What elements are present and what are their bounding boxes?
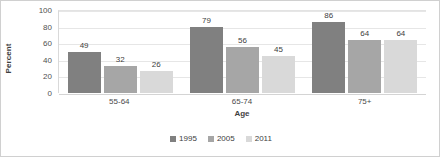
- bar-slot: 32: [104, 11, 137, 93]
- bar-group: 866464: [304, 11, 426, 93]
- bar-group-inner: 866464: [312, 11, 417, 93]
- bar[interactable]: 26: [140, 71, 173, 93]
- y-axis-tick-label: 60: [18, 39, 52, 48]
- bar-value-label: 32: [116, 55, 125, 64]
- y-axis-tick-label: 40: [18, 55, 52, 64]
- x-axis-category-label: 55-64: [58, 95, 181, 109]
- legend-swatch-icon: [246, 136, 252, 142]
- y-axis-tick-label: 0: [18, 89, 52, 98]
- legend-swatch-icon: [170, 136, 176, 142]
- bar-value-label: 64: [396, 29, 405, 38]
- y-axis-tick-label: 20: [18, 72, 52, 81]
- bar[interactable]: 64: [384, 40, 417, 93]
- bar-group: 493226: [59, 11, 181, 93]
- plot-area: 493226795645866464: [58, 10, 426, 93]
- bar-slot: 64: [384, 11, 417, 93]
- bar-slot: 64: [348, 11, 381, 93]
- x-axis-category-label: 75+: [303, 95, 426, 109]
- legend-item[interactable]: 2011: [246, 134, 272, 143]
- legend-label: 1995: [179, 134, 197, 143]
- bar-value-label: 45: [274, 45, 283, 54]
- legend-swatch-icon: [208, 136, 214, 142]
- bar-group: 795645: [181, 11, 303, 93]
- y-axis-tick-label: 100: [18, 6, 52, 15]
- bar-value-label: 79: [202, 16, 211, 25]
- chart-legend: 199520052011: [1, 134, 440, 143]
- bar-value-label: 49: [80, 41, 89, 50]
- bar-slot: 56: [226, 11, 259, 93]
- legend-item[interactable]: 2005: [208, 134, 235, 143]
- legend-item[interactable]: 1995: [170, 134, 197, 143]
- bar[interactable]: 64: [348, 40, 381, 93]
- bar[interactable]: 45: [262, 56, 295, 93]
- bar-chart: Percent 100806040200 493226795645866464 …: [0, 0, 440, 157]
- legend-label: 2005: [217, 134, 235, 143]
- bar[interactable]: 32: [104, 66, 137, 93]
- bar-slot: 26: [140, 11, 173, 93]
- x-axis-category-label: 65-74: [181, 95, 304, 109]
- bar-value-label: 56: [238, 36, 247, 45]
- bar-slot: 45: [262, 11, 295, 93]
- y-axis-title-label: Percent: [4, 43, 13, 73]
- bar[interactable]: 49: [68, 52, 101, 93]
- bar-value-label: 64: [360, 29, 369, 38]
- bar-value-label: 86: [324, 11, 333, 20]
- bar[interactable]: 56: [226, 47, 259, 93]
- x-axis-category-labels: 55-6465-7475+: [58, 95, 426, 109]
- bar-slot: 49: [68, 11, 101, 93]
- y-axis-title: Percent: [1, 33, 15, 83]
- bar-slot: 86: [312, 11, 345, 93]
- bar-groups: 493226795645866464: [59, 11, 426, 93]
- y-axis-tick-label: 80: [18, 22, 52, 31]
- bar-slot: 79: [190, 11, 223, 93]
- bar[interactable]: 79: [190, 27, 223, 93]
- legend-label: 2011: [255, 134, 272, 143]
- x-axis-title: Age: [58, 109, 426, 118]
- bar[interactable]: 86: [312, 22, 345, 93]
- bar-group-inner: 493226: [68, 11, 173, 93]
- bar-group-inner: 795645: [190, 11, 295, 93]
- bar-value-label: 26: [152, 60, 161, 69]
- y-axis-tick-labels: 100806040200: [17, 5, 55, 93]
